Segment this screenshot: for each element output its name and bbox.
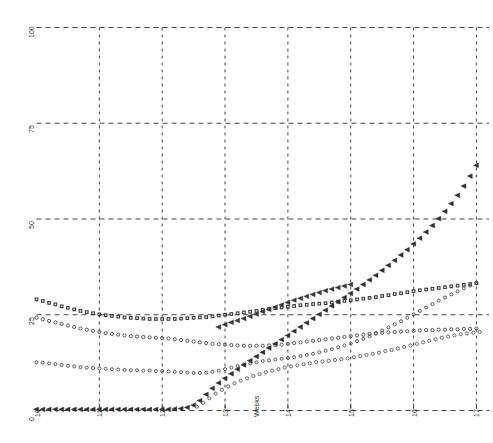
x-tick-label: 12	[159, 409, 166, 417]
marker-circle	[362, 333, 365, 336]
marker-square	[136, 317, 139, 320]
marker-triangle-left	[203, 392, 208, 397]
marker-circle	[365, 353, 368, 356]
series-triangle-left	[34, 163, 479, 412]
marker-triangle-left	[216, 381, 221, 386]
marker-circle	[91, 329, 94, 332]
marker-triangle-left	[140, 407, 145, 412]
marker-circle	[242, 344, 245, 347]
marker-s-glyph	[456, 290, 459, 293]
marker-square	[148, 318, 151, 321]
marker-circle	[393, 330, 396, 333]
marker-circle	[179, 338, 182, 341]
marker-triangle-left	[436, 216, 441, 221]
marker-circle	[54, 321, 57, 324]
marker-circle	[333, 358, 336, 361]
y-tick-label: 50	[28, 221, 35, 229]
marker-triangle-left	[461, 184, 466, 189]
marker-square	[60, 305, 63, 308]
marker-s-glyph	[305, 353, 308, 356]
marker-square	[142, 317, 145, 320]
marker-s-glyph	[54, 363, 57, 366]
marker-circle	[346, 357, 349, 360]
marker-s-glyph	[148, 369, 151, 372]
marker-square	[79, 310, 82, 313]
x-tick-label: 17	[473, 409, 480, 417]
marker-triangle-left	[272, 305, 277, 310]
marker-triangle-left	[417, 236, 422, 241]
marker-square	[54, 303, 57, 306]
series-circle	[35, 316, 478, 347]
marker-s-glyph	[104, 367, 107, 370]
marker-triangle-left	[442, 209, 447, 214]
marker-square	[368, 297, 371, 300]
marker-circle	[214, 392, 217, 395]
marker-circle	[434, 338, 437, 341]
marker-circle	[440, 336, 443, 339]
marker-square	[412, 290, 415, 293]
marker-circle	[453, 334, 456, 337]
marker-square	[293, 305, 296, 308]
marker-s-glyph	[450, 293, 453, 296]
marker-circle	[406, 330, 409, 333]
marker-s-glyph	[198, 371, 201, 374]
marker-s-glyph	[362, 337, 365, 340]
marker-triangle-left	[272, 341, 277, 346]
marker-circle	[249, 344, 252, 347]
x-axis-title-label: Weeks	[253, 395, 260, 416]
marker-s-glyph	[324, 349, 327, 352]
marker-circle	[35, 316, 38, 319]
marker-square	[186, 317, 189, 320]
marker-circle	[425, 328, 428, 331]
marker-triangle-left	[379, 268, 384, 273]
marker-circle	[205, 341, 208, 344]
marker-square	[123, 316, 126, 319]
marker-square	[85, 311, 88, 314]
marker-s-glyph	[142, 369, 145, 372]
marker-square	[73, 308, 76, 311]
marker-circle	[173, 338, 176, 341]
marker-triangle-left	[373, 273, 378, 278]
marker-s-glyph	[167, 370, 170, 373]
marker-triangle-left	[323, 288, 328, 293]
marker-triangle-left	[77, 407, 82, 412]
marker-square	[67, 307, 70, 310]
marker-square	[180, 317, 183, 320]
marker-s-glyph	[230, 366, 233, 369]
marker-circle	[340, 358, 343, 361]
marker-circle	[387, 331, 390, 334]
marker-circle	[142, 335, 145, 338]
marker-square	[255, 310, 258, 313]
marker-s-glyph	[98, 367, 101, 370]
marker-square	[98, 313, 101, 316]
marker-s-glyph	[374, 332, 377, 335]
marker-circle	[230, 343, 233, 346]
marker-circle	[337, 336, 340, 339]
marker-s-glyph	[66, 364, 69, 367]
marker-circle	[330, 337, 333, 340]
marker-square	[425, 288, 428, 291]
marker-square	[318, 302, 321, 305]
marker-s-glyph	[393, 323, 396, 326]
marker-s-glyph	[475, 281, 478, 284]
marker-triangle-left	[329, 287, 334, 292]
marker-circle	[41, 318, 44, 321]
marker-circle	[280, 343, 283, 346]
marker-circle	[258, 373, 261, 376]
marker-circle	[371, 352, 374, 355]
marker-s-glyph	[48, 362, 51, 365]
marker-circle	[428, 339, 431, 342]
marker-square	[48, 302, 51, 305]
marker-triangle-left	[260, 350, 265, 355]
marker-circle	[403, 345, 406, 348]
marker-circle	[302, 363, 305, 366]
marker-circle	[324, 338, 327, 341]
marker-s-glyph	[437, 299, 440, 302]
marker-square	[331, 301, 334, 304]
marker-circle	[472, 331, 475, 334]
marker-s-glyph	[381, 329, 384, 332]
marker-circle	[469, 327, 472, 330]
marker-square	[362, 297, 365, 300]
marker-circle	[352, 356, 355, 359]
marker-square	[129, 317, 132, 320]
